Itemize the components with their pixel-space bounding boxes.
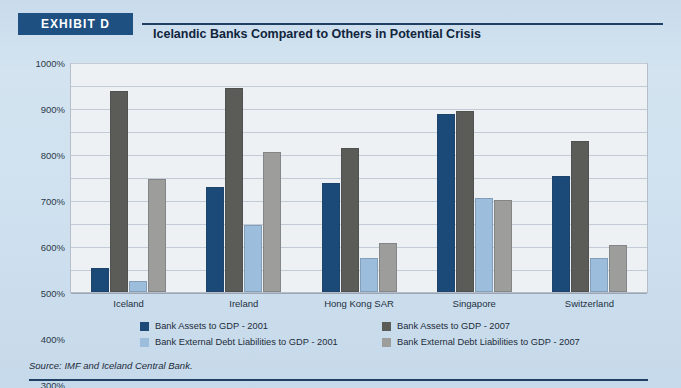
legend-swatch — [382, 322, 391, 331]
bar — [437, 114, 455, 292]
exhibit-page: EXHIBIT D Icelandic Banks Compared to Ot… — [0, 0, 681, 388]
y-axis-tick-label: 600% — [41, 242, 65, 253]
gridline: 0% — [71, 293, 647, 294]
bar-group: Hong Kong SAR — [301, 64, 416, 292]
y-axis-tick-label: 400% — [41, 334, 65, 345]
chart-legend: Bank Assets to GDP - 2001Bank Assets to … — [140, 318, 610, 350]
x-axis-category-label: Iceland — [113, 298, 144, 309]
bottom-rule — [29, 379, 648, 381]
bar — [552, 176, 570, 292]
bar — [322, 183, 340, 292]
bar — [110, 91, 128, 292]
legend-item: Bank External Debt Liabilities to GDP - … — [382, 334, 610, 350]
legend-swatch — [140, 338, 149, 347]
legend-item: Bank External Debt Liabilities to GDP - … — [140, 334, 368, 350]
bar-group: Ireland — [186, 64, 301, 292]
header-rule — [142, 23, 663, 25]
exhibit-header: EXHIBIT D Icelandic Banks Compared to Ot… — [18, 13, 663, 37]
plot-area: 0%100%200%300%400%500%600%700%800%900%10… — [70, 63, 648, 293]
x-axis-category-label: Singapore — [453, 298, 496, 309]
bar-group: Iceland — [71, 64, 186, 292]
y-axis-tick-label: 800% — [41, 150, 65, 161]
bar — [379, 243, 397, 292]
legend-item: Bank Assets to GDP - 2007 — [382, 318, 610, 334]
legend-swatch — [382, 338, 391, 347]
bar — [263, 152, 281, 292]
x-axis-category-label: Ireland — [229, 298, 258, 309]
bar-group: Switzerland — [532, 64, 647, 292]
bar-chart: 0%100%200%300%400%500%600%700%800%900%10… — [0, 52, 681, 307]
x-axis-category-label: Switzerland — [565, 298, 614, 309]
bar — [206, 187, 224, 292]
bar-groups: IcelandIrelandHong Kong SARSingaporeSwit… — [71, 64, 647, 292]
bar — [244, 225, 262, 292]
bar — [360, 258, 378, 293]
y-axis-tick-label: 900% — [41, 104, 65, 115]
x-axis-category-label: Hong Kong SAR — [324, 298, 394, 309]
bar — [571, 141, 589, 292]
legend-label: Bank Assets to GDP - 2001 — [155, 321, 268, 331]
bar — [225, 88, 243, 292]
bar — [475, 198, 493, 292]
y-axis-tick-label: 700% — [41, 196, 65, 207]
bar — [91, 268, 109, 292]
legend-label: Bank Assets to GDP - 2007 — [397, 321, 510, 331]
legend-swatch — [140, 322, 149, 331]
exhibit-tag: EXHIBIT D — [18, 13, 133, 35]
y-axis-tick-label: 500% — [41, 288, 65, 299]
bar — [494, 200, 512, 292]
page-title: Icelandic Banks Compared to Others in Po… — [153, 27, 481, 41]
bar — [456, 111, 474, 292]
y-axis-tick-label: 1000% — [35, 58, 65, 69]
legend-label: Bank External Debt Liabilities to GDP - … — [155, 337, 338, 347]
bar-group: Singapore — [417, 64, 532, 292]
bar — [148, 179, 166, 292]
source-note: Source: IMF and Iceland Central Bank. — [29, 360, 193, 371]
bar — [590, 258, 608, 293]
bar — [609, 245, 627, 292]
legend-item: Bank Assets to GDP - 2001 — [140, 318, 368, 334]
bar — [129, 281, 147, 293]
legend-label: Bank External Debt Liabilities to GDP - … — [397, 337, 580, 347]
bar — [341, 148, 359, 292]
